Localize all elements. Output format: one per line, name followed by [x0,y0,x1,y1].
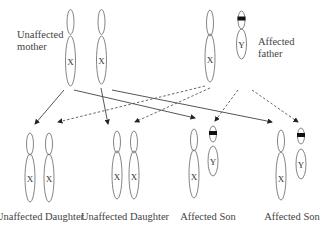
offspring-daughter-1: X X Unaffected Daughter [0,133,85,222]
father-group: Affected father X Y [205,10,295,82]
father-label-line2: father [258,48,283,59]
son-2-x-letter: X [278,174,285,184]
mutation-marker [238,17,246,21]
daughter-1-chr2-letter: X [46,174,53,184]
father-y-chromosome: Y [237,11,247,59]
daughter-2-chr1-letter: X [114,172,121,182]
inheritance-arrows [35,86,298,124]
offspring-son-1: X Y Affected Son [180,126,236,222]
daughter-2-chr2-letter: X [131,172,138,182]
son-1-mutation-marker [209,131,217,135]
father-label-line1: Affected [258,36,295,47]
mother-x-chromosome-2: X [97,10,107,85]
father-x-chromosome: X [205,10,215,82]
arrow-mother-to-daughter-1 [35,90,64,124]
offspring-label-1: Unaffected Daughter [0,211,85,222]
son-1-y-letter: Y [210,157,217,167]
arrow-mother-to-daughter-2 [101,88,108,124]
mother-chr1-letter: X [67,57,74,67]
mother-group: Unaffected mother X X [17,10,107,87]
son-2-mutation-marker [297,133,305,137]
inheritance-diagram: Unaffected mother X X Affected father X … [0,0,323,232]
daughter-1-chr1-letter: X [27,174,34,184]
offspring-label-2: Unaffected Daughter [81,211,170,222]
offspring-label-4: Affected Son [264,211,320,222]
offspring-daughter-2: X X Unaffected Daughter [81,131,170,222]
arrow-father-to-son-2 [252,90,298,122]
mother-x-chromosome-1: X [66,10,76,87]
son-1-x-letter: X [191,172,198,182]
mother-label-line2: mother [17,41,47,52]
offspring-label-3: Affected Son [180,211,236,222]
father-x-letter: X [207,55,214,65]
son-2-y-letter: Y [298,160,305,170]
arrow-father-to-daughter-2 [135,88,210,122]
arrow-father-to-son-1 [215,90,238,121]
offspring-son-2: X Y Affected Son [264,128,320,222]
mother-label-line1: Unaffected [17,29,64,40]
father-y-letter: Y [238,40,245,50]
mother-chr2-letter: X [98,56,105,66]
